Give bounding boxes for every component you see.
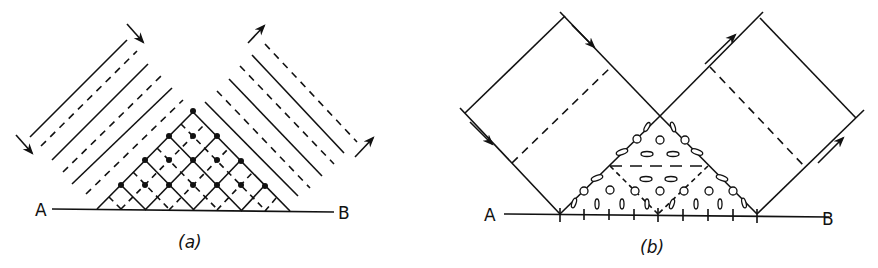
panel-a xyxy=(16,24,373,212)
arrow-incident-top-icon xyxy=(127,24,143,42)
label-b-endpoint-right: B xyxy=(822,209,834,229)
arrow-reflected-bottom-icon xyxy=(355,138,373,157)
arrow-reflected-inner-icon xyxy=(705,35,735,64)
arrow-incident-bottom-icon xyxy=(16,135,32,153)
panel-b xyxy=(460,12,864,223)
incident-wavefront-top xyxy=(465,16,565,113)
label-b-endpoint-left: A xyxy=(484,205,496,225)
arrow-incident-outer-icon xyxy=(470,122,492,144)
reflected-ray-outer xyxy=(757,110,864,214)
label-a-endpoint-right: B xyxy=(338,203,350,223)
incident-wavefront-mid xyxy=(512,66,612,163)
caption-b: (b) xyxy=(640,237,664,257)
reflected-wavefront-mid xyxy=(710,67,805,167)
label-a-endpoint-left: A xyxy=(35,200,47,220)
figure-canvas: A B (a) xyxy=(0,0,878,268)
caption-a: (a) xyxy=(178,232,202,252)
arrow-incident-inner-icon xyxy=(572,25,594,47)
incident-ray-outer xyxy=(460,108,560,214)
incident-wavefronts xyxy=(30,40,183,194)
arrow-reflected-top-icon xyxy=(248,26,264,43)
surface-line-ab xyxy=(504,214,829,217)
reflected-ray-inner xyxy=(660,12,763,116)
reflected-wavefront-top xyxy=(760,18,856,118)
